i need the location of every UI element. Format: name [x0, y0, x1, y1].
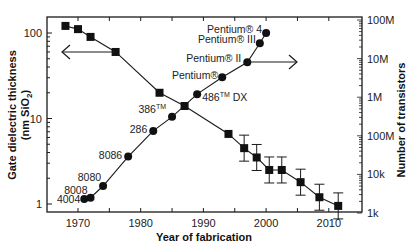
chip-label: Pentium® 4 — [207, 23, 262, 35]
circle-marker — [193, 90, 201, 98]
x-axis-ticks: 19701980199020002010 — [66, 17, 341, 229]
chip-label: 486TM DX — [202, 91, 247, 103]
right-y-tick-label: 1k — [367, 207, 379, 219]
axis-indicator-arrows — [62, 45, 297, 69]
chip-label: Pentium® II — [186, 52, 241, 64]
circle-marker — [99, 182, 107, 190]
square-marker — [61, 22, 69, 30]
circle-marker — [168, 113, 176, 121]
x-tick-label: 1980 — [128, 217, 152, 229]
square-marker — [181, 102, 189, 110]
square-marker — [156, 89, 164, 97]
chip-label: 8086 — [99, 149, 123, 161]
chip-label: Pentium® — [172, 69, 219, 81]
x-axis-title: Year of fabrication — [156, 231, 252, 243]
data-markers — [61, 22, 342, 210]
left-y-axis-title-line1: Gate dielectric thickness — [6, 50, 18, 180]
x-tick-label: 1970 — [66, 217, 90, 229]
circle-marker — [256, 39, 264, 47]
right-y-tick-label: 1M — [367, 91, 382, 103]
chip-label: 386TM — [138, 103, 166, 115]
square-marker — [297, 178, 305, 186]
chip-label: 8008 — [64, 184, 88, 196]
right-y-tick-label: 10M — [367, 53, 388, 65]
circle-marker — [149, 127, 157, 135]
circle-marker — [262, 29, 270, 37]
right-y-tick-label: 10k — [367, 168, 385, 180]
right-y-tick-label: 100M — [367, 14, 395, 26]
square-marker — [74, 25, 82, 33]
x-tick-label: 2000 — [254, 217, 278, 229]
square-marker — [278, 166, 286, 174]
square-marker — [253, 153, 261, 161]
chip-label: 286 — [130, 123, 148, 135]
x-tick-label: 1990 — [191, 217, 215, 229]
point-labels: 4004800880808086286386TM486TM DXPentium®… — [57, 23, 262, 205]
left-y-tick-label: 100 — [24, 27, 42, 39]
square-marker — [265, 166, 273, 174]
square-marker — [240, 144, 248, 152]
square-marker — [87, 33, 95, 41]
chip-label: Pentium® III — [198, 33, 256, 45]
right-y-tick-label: 100M — [367, 130, 395, 142]
error-bars — [239, 135, 343, 219]
square-marker — [334, 202, 342, 210]
left-y-axis-title: Gate dielectric thickness (nm SiO2) — [6, 50, 34, 180]
square-marker — [224, 130, 232, 138]
circle-marker — [218, 73, 226, 81]
chart: 19701980199020002010 110100 1k10k100M1M1… — [0, 0, 414, 250]
left-y-tick-label: 1 — [36, 198, 42, 210]
chip-label: 8080 — [78, 171, 102, 183]
right-y-axis-title: Number of transistors — [395, 63, 407, 178]
left-y-tick-label: 10 — [30, 113, 42, 125]
circle-marker — [124, 153, 132, 161]
circle-marker — [87, 194, 95, 202]
square-marker — [315, 193, 323, 201]
